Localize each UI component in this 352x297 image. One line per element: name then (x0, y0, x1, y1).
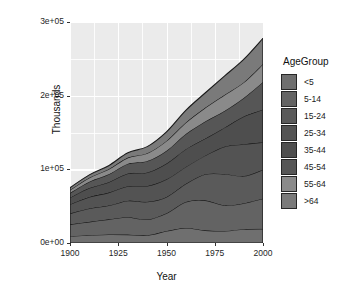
legend-item-5-14[interactable]: 5-14 (281, 90, 351, 107)
x-tick-label: 1925 (98, 249, 138, 258)
x-tick-mark (215, 243, 216, 246)
stacked-area-chart: Thousands Year AgeGroup <55-1415-2425-34… (0, 0, 352, 297)
legend-item-45-54[interactable]: 45-54 (281, 158, 351, 175)
legend-swatch-icon (281, 91, 297, 107)
y-tick-label: 2e+05 (40, 91, 64, 100)
y-axis-title: Thousands (51, 50, 62, 170)
legend-item-label: 45-54 (304, 162, 326, 172)
x-tick-label: 1975 (195, 249, 235, 258)
legend-swatch-icon (281, 125, 297, 141)
y-tick-label: 3e+05 (40, 17, 64, 26)
plot-panel (70, 22, 263, 243)
legend-item-label: 25-34 (304, 128, 326, 138)
x-axis-title: Year (70, 271, 263, 282)
x-tick-mark (70, 243, 71, 246)
legend-item-label: <5 (304, 77, 314, 87)
legend-item-35-44[interactable]: 35-44 (281, 141, 351, 158)
legend-title: AgeGroup (283, 56, 351, 67)
legend-swatch-icon (281, 142, 297, 158)
legend-item-label: 15-24 (304, 111, 326, 121)
legend-item-55-64[interactable]: 55-64 (281, 175, 351, 192)
legend-item-label: 5-14 (304, 94, 321, 104)
y-tick-mark (67, 169, 70, 170)
legend-item-15-24[interactable]: 15-24 (281, 107, 351, 124)
legend-swatch-icon (281, 74, 297, 90)
legend-item-label: 35-44 (304, 145, 326, 155)
legend-item-<5[interactable]: <5 (281, 73, 351, 90)
legend-swatch-icon (281, 176, 297, 192)
y-tick-label: 0e+00 (40, 238, 64, 247)
y-tick-label: 1e+05 (40, 164, 64, 173)
legend-swatch-icon (281, 159, 297, 175)
legend-swatch-icon (281, 108, 297, 124)
legend-item-label: 55-64 (304, 179, 326, 189)
legend: AgeGroup <55-1415-2425-3435-4445-5455-64… (281, 56, 351, 209)
legend-item->64[interactable]: >64 (281, 192, 351, 209)
x-tick-mark (167, 243, 168, 246)
area-series-layer (70, 22, 263, 243)
y-tick-mark (67, 96, 70, 97)
x-tick-label: 2000 (243, 249, 283, 258)
x-tick-mark (118, 243, 119, 246)
x-tick-label: 1950 (147, 249, 187, 258)
legend-item-label: >64 (304, 196, 318, 206)
x-tick-mark (263, 243, 264, 246)
legend-items: <55-1415-2425-3435-4445-5455-64>64 (281, 73, 351, 209)
legend-item-25-34[interactable]: 25-34 (281, 124, 351, 141)
y-tick-mark (67, 22, 70, 23)
legend-swatch-icon (281, 193, 297, 209)
x-tick-label: 1900 (50, 249, 90, 258)
